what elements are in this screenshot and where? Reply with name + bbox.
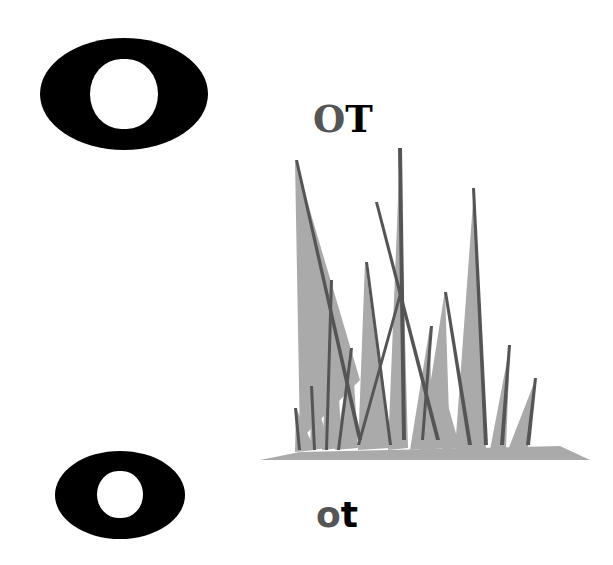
grass-illustration (260, 140, 600, 470)
word-uppercase-rest: T (345, 97, 373, 141)
word-uppercase: OT (313, 101, 373, 138)
word-lowercase-first-letter: o (316, 494, 341, 535)
word-uppercase-first-letter: O (313, 97, 345, 141)
letter-counter (90, 59, 158, 129)
letter-counter (97, 471, 143, 518)
uppercase-letter-o (40, 38, 208, 150)
word-lowercase: ot (316, 497, 358, 533)
word-lowercase-rest: t (341, 494, 358, 535)
lowercase-letter-o (55, 451, 185, 539)
